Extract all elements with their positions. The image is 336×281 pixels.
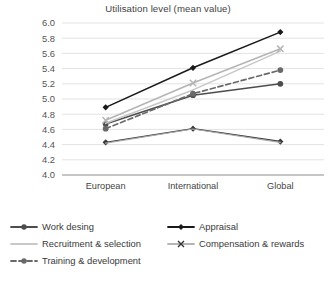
- y-tick-label: 4.8: [42, 109, 55, 120]
- y-tick-label: 4.0: [42, 169, 55, 180]
- legend-label: Compensation & rewards: [199, 237, 304, 251]
- legend-swatch: [10, 254, 38, 268]
- x-tick-label: International: [168, 181, 219, 191]
- legend-item[interactable]: Work desing: [10, 219, 170, 235]
- y-axis-tick-labels: 6.05.85.65.45.25.04.84.64.44.24.0: [42, 17, 55, 180]
- data-point-marker: [190, 65, 196, 71]
- legend-item[interactable]: Recruitment & selection: [10, 236, 170, 252]
- legend-swatch: [10, 220, 38, 234]
- y-tick-label: 5.6: [42, 48, 55, 59]
- y-tick-label: 4.6: [42, 124, 55, 135]
- data-point-marker: [190, 91, 196, 97]
- legend-swatch: [10, 237, 38, 251]
- series-line: [106, 49, 281, 120]
- x-axis-tick-labels: EuropeanExportersInternationalInvestorsG…: [86, 181, 301, 194]
- y-tick-label: 4.2: [42, 154, 55, 165]
- x-tick-label: Exporters: [86, 193, 126, 194]
- legend-label: Training & development: [42, 254, 141, 268]
- chart-container: Utilisation level (mean value) 6.05.85.6…: [0, 0, 336, 281]
- x-tick-label: Global: [267, 181, 294, 191]
- data-point-marker: [277, 67, 283, 73]
- data-point-marker: [103, 104, 109, 110]
- y-tick-label: 5.2: [42, 78, 55, 89]
- legend-swatch: [167, 220, 195, 234]
- x-tick-label: Investors: [174, 193, 212, 194]
- data-series-layer: [102, 29, 283, 145]
- data-point-marker: [103, 126, 109, 132]
- legend-label: Recruitment & selection: [42, 237, 141, 251]
- legend-marker: [21, 224, 26, 229]
- legend-item[interactable]: Appraisal: [167, 219, 336, 235]
- y-tick-label: 5.4: [42, 63, 55, 74]
- legend-label: Appraisal: [199, 220, 238, 234]
- x-tick-label: European: [86, 181, 126, 191]
- legend-marker: [178, 224, 184, 230]
- legend-marker: [21, 258, 26, 263]
- x-tick-label: Exporters: [261, 193, 301, 194]
- data-point-marker: [190, 80, 196, 86]
- legend-item[interactable]: Training & development: [10, 253, 170, 269]
- y-tick-label: 4.4: [42, 139, 55, 150]
- legend-column-right: AppraisalCompensation & rewards: [167, 219, 336, 253]
- plot-area: 6.05.85.65.45.25.04.84.64.44.24.0 Europe…: [0, 14, 336, 194]
- data-point-marker: [277, 29, 283, 35]
- chart-legend: Work desingRecruitment & selectionTraini…: [10, 219, 336, 275]
- gridlines: [62, 23, 324, 175]
- legend-swatch: [167, 237, 195, 251]
- chart-title: Utilisation level (mean value): [0, 3, 336, 14]
- y-tick-label: 5.0: [42, 93, 55, 104]
- line-chart-svg: 6.05.85.65.45.25.04.84.64.44.24.0 Europe…: [0, 14, 336, 194]
- legend-item[interactable]: Compensation & rewards: [167, 236, 336, 252]
- legend-column-left: Work desingRecruitment & selectionTraini…: [10, 219, 170, 270]
- data-point-marker: [277, 81, 283, 87]
- legend-label: Work desing: [42, 220, 94, 234]
- y-tick-label: 6.0: [42, 17, 55, 28]
- y-tick-label: 5.8: [42, 33, 55, 44]
